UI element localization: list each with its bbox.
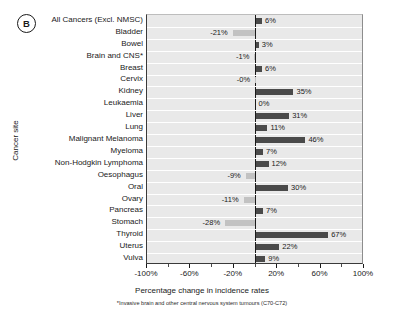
bar <box>256 256 266 262</box>
bar-value-label: 9% <box>268 255 279 263</box>
bar-value-label: 46% <box>308 136 323 144</box>
category-label: Malignant Melanoma <box>36 135 143 143</box>
gridline <box>147 110 362 111</box>
bar <box>256 232 329 238</box>
gridline <box>147 229 362 230</box>
bar <box>256 18 263 24</box>
bar-value-label: 7% <box>266 207 277 215</box>
gridline <box>147 134 362 135</box>
x-axis-tick-major <box>320 264 321 268</box>
x-axis-tick-minor <box>211 264 212 267</box>
x-axis-tick-label: -60% <box>167 269 211 278</box>
category-label: Oesophagus <box>36 171 143 179</box>
category-label: Leukaemia <box>36 99 143 107</box>
bar-value-label: -21% <box>210 29 228 37</box>
bar <box>256 208 264 214</box>
bar <box>256 137 306 143</box>
bar-value-label: 11% <box>270 124 284 132</box>
bar <box>256 125 268 131</box>
x-axis-tick-minor <box>168 264 169 267</box>
bar-value-label: -1% <box>236 53 249 61</box>
bar <box>225 220 255 226</box>
gridline <box>147 194 362 195</box>
bar-value-label: 3% <box>262 41 273 49</box>
bar-value-label: 6% <box>265 17 276 25</box>
bar <box>256 149 264 155</box>
category-label: Uterus <box>36 242 143 250</box>
category-label: Lung <box>36 123 143 131</box>
bar-value-label: 35% <box>296 88 311 96</box>
category-label: Thyroid <box>36 230 143 238</box>
category-label: Ovary <box>36 195 143 203</box>
bar <box>256 42 259 48</box>
bar-value-label: 67% <box>331 231 346 239</box>
x-axis-tick-minor <box>298 264 299 267</box>
x-axis-tick-label: -100% <box>124 269 168 278</box>
gridline <box>147 205 362 206</box>
bar-value-label: -0% <box>237 76 250 84</box>
footnote: *Invasive brain and other central nervou… <box>0 300 404 306</box>
category-label: Vulva <box>36 254 143 262</box>
x-axis-tick-label: 60% <box>298 269 342 278</box>
plot-area: 6%-21%3%-1%6%-0%35%0%31%11%46%7%12%-9%30… <box>146 14 363 264</box>
gridline <box>147 122 362 123</box>
x-axis-title: Percentage change in incidence rates <box>0 286 404 295</box>
x-axis-tick-major <box>189 264 190 268</box>
bar-value-label: 22% <box>282 243 297 251</box>
bar-value-label: -11% <box>222 196 239 204</box>
category-label: Cervix <box>36 75 143 83</box>
x-axis-tick-minor <box>341 264 342 267</box>
category-label: Non-Hodgkin Lymphoma <box>36 159 143 167</box>
bar-value-label: 6% <box>265 65 276 73</box>
bar <box>256 161 269 167</box>
category-label: All Cancers (Excl. NMSC) <box>36 16 143 24</box>
gridline <box>147 217 362 218</box>
gridline <box>147 170 362 171</box>
x-axis-tick-major <box>233 264 234 268</box>
category-label: Oral <box>36 183 143 191</box>
bar-value-label: 7% <box>266 148 277 156</box>
category-label: Myeloma <box>36 147 143 155</box>
bar <box>256 113 290 119</box>
x-axis-tick-major <box>146 264 147 268</box>
gridline <box>147 27 362 28</box>
bar-value-label: 12% <box>272 160 287 168</box>
bar <box>254 54 255 60</box>
x-axis-tick-major <box>276 264 277 268</box>
category-label: Pancreas <box>36 206 143 214</box>
x-axis-tick-label: -20% <box>211 269 255 278</box>
x-axis-tick-major <box>363 264 364 268</box>
x-axis-tick-minor <box>255 264 256 267</box>
bar <box>256 244 280 250</box>
category-label: Bladder <box>36 28 143 36</box>
gridline <box>147 241 362 242</box>
bar <box>256 89 294 95</box>
panel-label-badge: B <box>17 14 36 33</box>
gridline <box>147 146 362 147</box>
bar <box>256 66 263 72</box>
category-label: Bowel <box>36 40 143 48</box>
bar <box>246 173 256 179</box>
gridline <box>147 63 362 64</box>
category-label: Kidney <box>36 87 143 95</box>
x-axis-tick-label: 20% <box>254 269 298 278</box>
category-label: Breast <box>36 64 143 72</box>
bar-value-label: 30% <box>291 184 306 192</box>
bar-value-label: 0% <box>259 100 270 108</box>
bar-value-label: -28% <box>203 219 221 227</box>
y-axis-title: Cancer site <box>11 101 20 181</box>
category-label: Liver <box>36 111 143 119</box>
gridline <box>147 51 362 52</box>
bar <box>256 185 289 191</box>
category-label: Stomach <box>36 218 143 226</box>
gridline <box>147 158 362 159</box>
gridline <box>147 98 362 99</box>
category-label-column: All Cancers (Excl. NMSC)BladderBowelBrai… <box>36 14 143 264</box>
gridline <box>147 86 362 87</box>
bar <box>233 30 256 36</box>
gridline <box>147 39 362 40</box>
bar <box>244 197 256 203</box>
bar-value-label: -9% <box>227 172 240 180</box>
incidence-change-bar-chart: B Cancer site All Cancers (Excl. NMSC)Bl… <box>0 0 404 316</box>
gridline <box>147 253 362 254</box>
